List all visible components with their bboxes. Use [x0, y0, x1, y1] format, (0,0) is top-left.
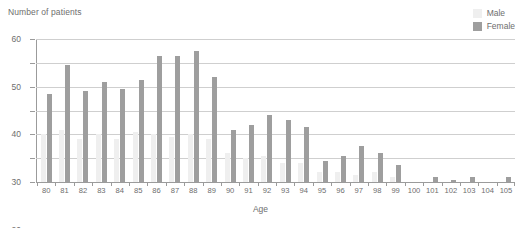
x-axis-label-96: 96 [331, 186, 349, 195]
bar-female-98[interactable] [378, 153, 383, 182]
chart-root: Number of patients Male Female 010203040… [0, 0, 521, 228]
x-axis-label-87: 87 [166, 186, 184, 195]
bar-male-84[interactable] [114, 139, 119, 182]
bar-group[interactable] [55, 39, 73, 182]
bar-male-98[interactable] [372, 172, 377, 182]
bar-male-89[interactable] [206, 139, 211, 182]
x-axis-title: Age [0, 204, 521, 214]
bar-male-83[interactable] [96, 134, 101, 182]
y-axis-title: Number of patients [8, 7, 82, 17]
bar-female-86[interactable] [157, 56, 162, 182]
bar-group[interactable] [239, 39, 257, 182]
bar-group[interactable] [405, 39, 423, 182]
bar-group[interactable] [497, 39, 515, 182]
bar-group[interactable] [92, 39, 110, 182]
y-axis-label: 60 [12, 34, 21, 44]
legend-item-female: Female [473, 21, 515, 31]
bar-group[interactable] [276, 39, 294, 182]
x-axis-label-91: 91 [239, 186, 257, 195]
bar-group[interactable] [350, 39, 368, 182]
bar-female-90[interactable] [231, 130, 236, 182]
legend-item-male: Male [473, 8, 515, 18]
bar-female-93[interactable] [286, 120, 291, 182]
bar-group[interactable] [478, 39, 496, 182]
bar-group[interactable] [111, 39, 129, 182]
y-tick-30: 30 [30, 111, 35, 112]
bar-group[interactable] [331, 39, 349, 182]
x-axis-label-105: 105 [497, 186, 515, 195]
bar-male-91[interactable] [243, 158, 248, 182]
bar-male-96[interactable] [335, 172, 340, 182]
bar-group[interactable] [386, 39, 404, 182]
bar-male-86[interactable] [151, 134, 156, 182]
x-axis-label-90: 90 [221, 186, 239, 195]
bar-male-97[interactable] [353, 175, 358, 182]
bar-female-96[interactable] [341, 156, 346, 182]
y-tick-20: 20 [30, 134, 35, 135]
bar-female-88[interactable] [194, 51, 199, 182]
bar-group[interactable] [423, 39, 441, 182]
bar-female-99[interactable] [396, 165, 401, 182]
bar-female-92[interactable] [267, 115, 272, 182]
x-axis-labels: 8081828384858687888990919293949596979899… [37, 186, 515, 195]
bar-female-94[interactable] [304, 127, 309, 182]
bar-group[interactable] [294, 39, 312, 182]
bar-group[interactable] [37, 39, 55, 182]
bar-female-91[interactable] [249, 125, 254, 182]
x-axis-label-82: 82 [74, 186, 92, 195]
bar-male-87[interactable] [169, 137, 174, 182]
bar-female-82[interactable] [83, 91, 88, 182]
y-axis-label: 20 [12, 225, 21, 228]
y-axis-label: 40 [12, 129, 21, 139]
bar-male-82[interactable] [77, 139, 82, 182]
x-axis-label-88: 88 [184, 186, 202, 195]
bar-male-92[interactable] [261, 156, 266, 182]
bar-group[interactable] [74, 39, 92, 182]
bar-male-81[interactable] [59, 130, 64, 182]
bar-male-94[interactable] [298, 163, 303, 182]
bar-group[interactable] [203, 39, 221, 182]
y-tick-10: 10 [30, 158, 35, 159]
x-axis-label-94: 94 [294, 186, 312, 195]
x-axis-label-86: 86 [147, 186, 165, 195]
legend-swatch-male [473, 9, 482, 18]
bar-male-90[interactable] [225, 153, 230, 182]
bar-female-84[interactable] [120, 89, 125, 182]
bar-female-83[interactable] [102, 82, 107, 182]
bar-male-80[interactable] [41, 134, 46, 182]
y-tick-50: 50 [30, 63, 35, 64]
bar-female-81[interactable] [65, 65, 70, 182]
bar-group[interactable] [442, 39, 460, 182]
y-axis-label: 50 [12, 82, 21, 92]
bar-group[interactable] [258, 39, 276, 182]
bar-female-95[interactable] [323, 161, 328, 182]
bar-group[interactable] [221, 39, 239, 182]
bar-group[interactable] [368, 39, 386, 182]
bar-group[interactable] [166, 39, 184, 182]
bar-female-80[interactable] [47, 94, 52, 182]
bar-male-85[interactable] [133, 132, 138, 182]
x-axis-label-102: 102 [442, 186, 460, 195]
legend-label-male: Male [487, 8, 505, 18]
x-axis-label-89: 89 [203, 186, 221, 195]
bar-male-95[interactable] [317, 172, 322, 182]
plot-area: 0102030405060 [36, 39, 515, 182]
bar-group[interactable] [313, 39, 331, 182]
x-axis-label-85: 85 [129, 186, 147, 195]
bar-male-93[interactable] [280, 163, 285, 182]
y-tick-60: 60 [30, 39, 35, 40]
x-axis-label-104: 104 [478, 186, 496, 195]
y-tick-0: 0 [30, 182, 35, 183]
bar-female-85[interactable] [139, 80, 144, 182]
bar-female-97[interactable] [359, 146, 364, 182]
x-axis-label-95: 95 [313, 186, 331, 195]
bar-group[interactable] [460, 39, 478, 182]
bar-male-88[interactable] [188, 134, 193, 182]
bar-female-87[interactable] [175, 56, 180, 182]
bar-group[interactable] [129, 39, 147, 182]
bar-group[interactable] [184, 39, 202, 182]
x-axis-label-99: 99 [386, 186, 404, 195]
bar-female-89[interactable] [212, 77, 217, 182]
bar-group[interactable] [147, 39, 165, 182]
x-axis-label-101: 101 [423, 186, 441, 195]
